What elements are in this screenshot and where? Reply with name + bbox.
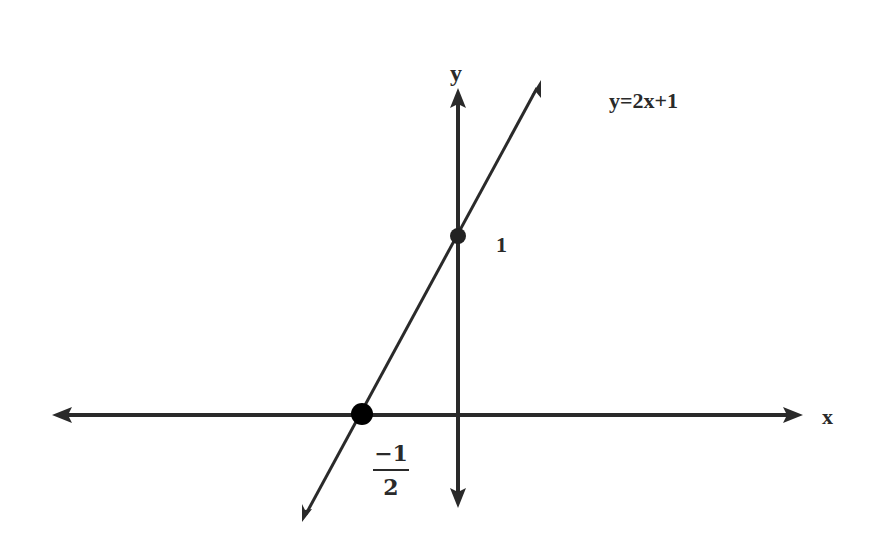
- fraction-denominator: 2: [383, 474, 398, 500]
- x-intercept-point: [351, 403, 373, 425]
- y-axis: [450, 88, 466, 508]
- fraction-numerator: −1: [374, 440, 408, 466]
- graph-canvas: [0, 0, 877, 549]
- y-axis-label: y: [450, 60, 462, 87]
- x-axis-label: x: [822, 404, 833, 430]
- line-y-2x-plus-1: [302, 80, 541, 522]
- y-intercept-point: [450, 228, 466, 244]
- fraction-bar: [373, 469, 409, 471]
- x-intercept-label: −1 2: [373, 440, 409, 500]
- equation-label: y=2x+1: [609, 88, 678, 114]
- x-axis: [52, 407, 803, 423]
- y-intercept-label: 1: [496, 232, 507, 258]
